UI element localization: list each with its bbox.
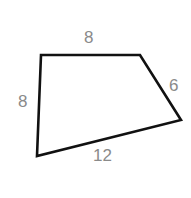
side-label-top: 8: [84, 29, 93, 46]
quadrilateral-outline: [37, 55, 181, 156]
side-label-right: 6: [169, 77, 178, 94]
quadrilateral-figure: [0, 0, 191, 198]
side-label-left: 8: [18, 93, 27, 110]
side-label-bottom: 12: [93, 147, 112, 164]
